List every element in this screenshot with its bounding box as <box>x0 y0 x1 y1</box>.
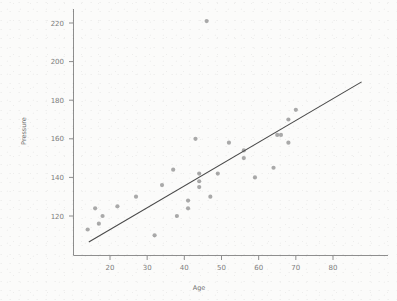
y-tick-label-160: 160 <box>51 135 64 143</box>
data-point <box>134 195 138 199</box>
data-point <box>227 141 231 145</box>
data-point <box>100 214 104 218</box>
scatter-plot-figure: 120140160180200220 20304050607080 Age Pr… <box>0 0 397 301</box>
data-point <box>242 156 246 160</box>
x-axis-label: Age <box>193 284 206 292</box>
data-point <box>286 117 290 121</box>
y-tick-label-180: 180 <box>51 97 64 105</box>
data-point <box>216 171 220 175</box>
x-tick-label-50: 50 <box>217 264 226 272</box>
data-point <box>186 206 190 210</box>
x-tick-label-80: 80 <box>329 264 338 272</box>
data-point <box>271 166 275 170</box>
data-point <box>175 214 179 218</box>
x-tick-label-30: 30 <box>143 264 152 272</box>
data-point <box>97 222 101 226</box>
data-point <box>197 185 201 189</box>
x-tick-label-20: 20 <box>106 264 115 272</box>
data-point <box>279 133 283 137</box>
data-point <box>193 137 197 141</box>
plot-canvas: 120140160180200220 20304050607080 Age Pr… <box>0 0 397 301</box>
data-point <box>253 175 257 179</box>
data-point <box>171 168 175 172</box>
x-tick-label-70: 70 <box>291 264 300 272</box>
data-point <box>160 183 164 187</box>
data-point <box>93 206 97 210</box>
y-tick-label-220: 220 <box>51 20 64 28</box>
x-tick-label-40: 40 <box>180 264 189 272</box>
data-point <box>197 171 201 175</box>
data-point <box>205 19 209 23</box>
data-point <box>208 195 212 199</box>
data-point <box>294 108 298 112</box>
data-point <box>186 198 190 202</box>
y-tick-label-140: 140 <box>51 174 64 182</box>
data-point <box>286 141 290 145</box>
data-point <box>197 179 201 183</box>
y-axis-label: Pressure <box>20 117 28 145</box>
y-tick-label-120: 120 <box>51 213 64 221</box>
data-point <box>86 227 90 231</box>
data-point <box>153 233 157 237</box>
y-tick-label-200: 200 <box>51 58 64 66</box>
x-tick-label-60: 60 <box>254 264 263 272</box>
data-point <box>275 133 279 137</box>
data-point <box>115 204 119 208</box>
